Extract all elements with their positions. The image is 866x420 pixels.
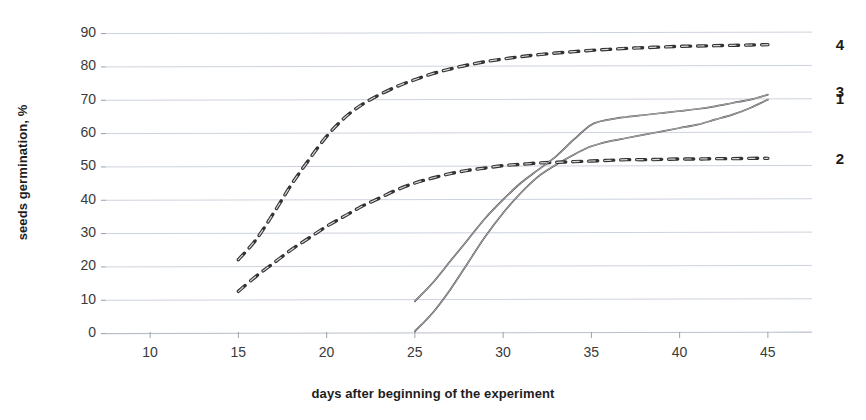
series-label-4: 4 (830, 36, 850, 53)
series-curves (238, 45, 768, 332)
series-line-highlight-2 (238, 158, 768, 291)
series-line-3 (415, 95, 768, 302)
gridline-y-20 (106, 265, 812, 267)
gridline-y-10 (106, 299, 812, 301)
gridline-y-50 (106, 165, 812, 167)
y-tick-label-80: 80 (62, 57, 96, 73)
x-tick-label-25: 25 (395, 344, 435, 360)
y-tick-label-20: 20 (62, 257, 96, 273)
y-tick-label-10: 10 (62, 291, 96, 307)
x-tick-label-30: 30 (483, 344, 523, 360)
chart-container: seeds germination, % 9080706050403020100… (0, 0, 866, 420)
x-tick-label-35: 35 (571, 344, 611, 360)
gridline-y-0 (106, 332, 812, 334)
series-line-highlight-1 (415, 100, 768, 332)
tick-marks (101, 34, 768, 338)
x-axis-title: days after beginning of the experiment (0, 386, 866, 401)
y-tick-label-30: 30 (62, 224, 96, 240)
gridline-y-30 (106, 232, 812, 234)
y-tick-label-0: 0 (62, 324, 96, 340)
gridlines (106, 32, 812, 334)
series-line-highlight-3 (415, 95, 768, 302)
gridline-y-60 (106, 132, 812, 134)
series-label-3: 3 (830, 83, 850, 100)
series-line-4 (238, 45, 768, 260)
x-tick-label-40: 40 (660, 344, 700, 360)
y-tick-label-60: 60 (62, 124, 96, 140)
y-tick-label-70: 70 (62, 91, 96, 107)
series-label-2: 2 (830, 150, 850, 167)
y-tick-label-90: 90 (62, 24, 96, 40)
x-tick-label-15: 15 (218, 344, 258, 360)
gridline-y-70 (106, 99, 812, 101)
series-line-highlight-4 (238, 45, 768, 260)
series-line-2 (238, 158, 768, 291)
x-tick-label-10: 10 (130, 344, 170, 360)
y-tick-label-50: 50 (62, 157, 96, 173)
gridline-y-40 (106, 199, 812, 201)
x-tick-label-45: 45 (748, 344, 788, 360)
series-line-1 (415, 100, 768, 332)
x-tick-label-20: 20 (307, 344, 347, 360)
y-tick-label-40: 40 (62, 191, 96, 207)
gridline-y-90 (106, 32, 812, 34)
